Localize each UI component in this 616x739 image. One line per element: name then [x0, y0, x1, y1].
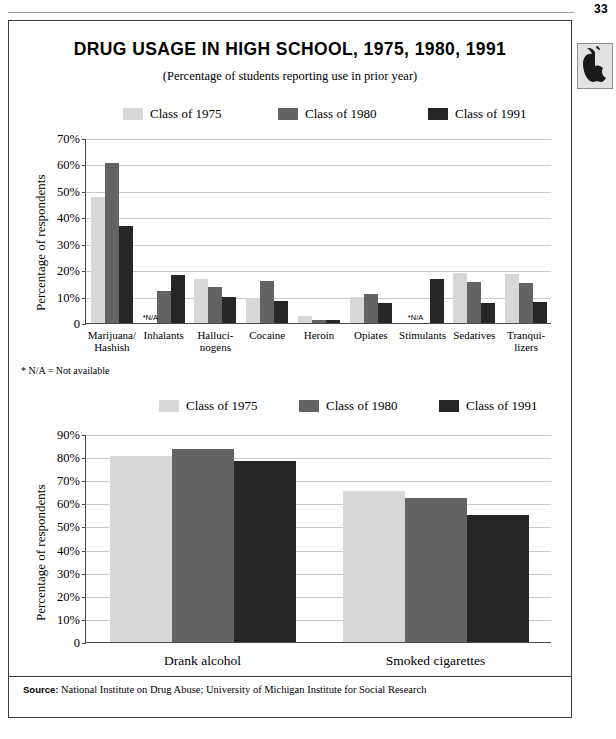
y-axis-tick-label: 70% [57, 474, 80, 489]
page-top-rule [8, 12, 574, 13]
y-axis-tick-label: 10% [57, 612, 80, 627]
chart-alcohol-and-cigarettes: Percentage of respondents 010%20%30%40%5… [9, 21, 573, 681]
chart-2-y-axis-title: Percentage of respondents [33, 485, 49, 621]
bar [343, 491, 405, 642]
y-axis-tick-label: 50% [57, 520, 80, 535]
y-axis-tick [82, 643, 86, 644]
bar [467, 515, 529, 642]
x-axis-category-label: Smoked cigarettes [291, 653, 580, 668]
y-axis-tick-label: 0 [74, 636, 80, 651]
page-root: 33 DRUG USAGE IN HIGH SCHOOL, 1975, 1980… [0, 0, 616, 739]
bar [110, 456, 172, 642]
y-axis-tick-label: 60% [57, 497, 80, 512]
source-text: National Institute on Drug Abuse; Univer… [61, 684, 426, 695]
bar-group [86, 435, 319, 642]
source-note: Source: National Institute on Drug Abuse… [23, 684, 426, 695]
y-axis-tick-label: 80% [57, 451, 80, 466]
bar [172, 449, 234, 642]
bar [405, 498, 467, 642]
apple-logo-icon [577, 43, 613, 89]
source-label: Source: [23, 684, 58, 695]
y-axis-tick-label: 40% [57, 543, 80, 558]
y-axis-tick-label: 20% [57, 589, 80, 604]
x-axis-category-line: Smoked cigarettes [291, 653, 580, 668]
source-divider [9, 676, 571, 677]
y-axis-tick-label: 90% [57, 428, 80, 443]
chart-2-plot-area: 010%20%30%40%50%60%70%80%90%Drank alcoho… [85, 435, 551, 643]
y-axis-tick-label: 30% [57, 566, 80, 581]
bar [234, 461, 296, 642]
bar-group [319, 435, 552, 642]
figure-panel: DRUG USAGE IN HIGH SCHOOL, 1975, 1980, 1… [8, 20, 572, 718]
page-number: 33 [594, 2, 608, 16]
